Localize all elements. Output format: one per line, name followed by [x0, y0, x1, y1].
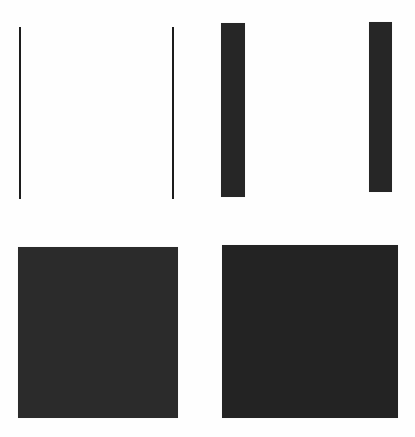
shape-square-left [18, 247, 178, 418]
quadrant-top-left [0, 0, 207, 218]
shape-square-right [222, 245, 398, 418]
shape-hairline-right [172, 27, 174, 199]
figure-canvas [0, 0, 415, 437]
shape-bar-right [369, 22, 392, 192]
shape-bar-left [221, 23, 245, 197]
shape-hairline-left [19, 27, 21, 199]
